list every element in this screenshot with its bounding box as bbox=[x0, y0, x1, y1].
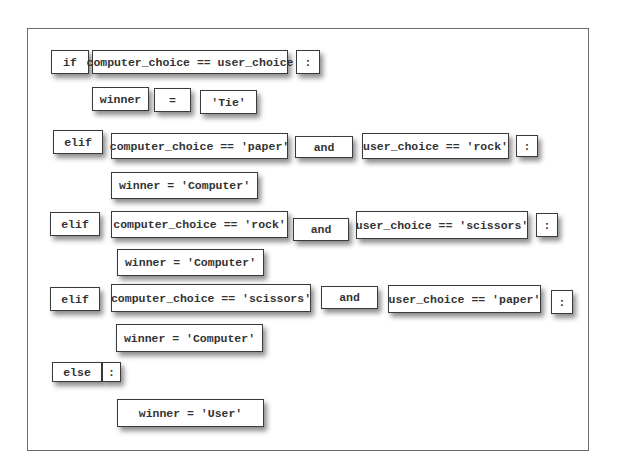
tile-elif[interactable]: elif bbox=[50, 212, 100, 236]
tile-tie-string[interactable]: 'Tie' bbox=[200, 90, 257, 114]
tile-and[interactable]: and bbox=[295, 136, 353, 158]
tile-if[interactable]: if bbox=[51, 50, 89, 74]
tile-condition[interactable]: computer_choice == 'rock' bbox=[111, 211, 288, 238]
tile-elif[interactable]: elif bbox=[50, 287, 100, 311]
tile-equals[interactable]: = bbox=[154, 88, 191, 112]
tile-condition[interactable]: computer_choice == user_choice bbox=[92, 50, 288, 74]
tile-elif[interactable]: elif bbox=[53, 130, 103, 154]
tile-and[interactable]: and bbox=[293, 218, 349, 241]
tile-and[interactable]: and bbox=[321, 286, 378, 309]
tile-condition[interactable]: computer_choice == 'scissors' bbox=[111, 284, 311, 312]
tile-colon[interactable]: : bbox=[516, 135, 538, 157]
tile-condition[interactable]: user_choice == 'paper' bbox=[388, 285, 541, 313]
tile-condition[interactable]: user_choice == 'scissors' bbox=[356, 211, 528, 239]
tile-else[interactable]: else bbox=[52, 362, 102, 382]
tile-winner[interactable]: winner bbox=[92, 87, 149, 111]
tile-colon[interactable]: : bbox=[296, 50, 320, 74]
tile-condition[interactable]: computer_choice == 'paper' bbox=[111, 133, 288, 159]
tile-assignment[interactable]: winner = 'Computer' bbox=[111, 172, 258, 199]
tile-colon[interactable]: : bbox=[536, 213, 558, 237]
tile-assignment[interactable]: winner = 'Computer' bbox=[117, 249, 264, 276]
tile-assignment[interactable]: winner = 'Computer' bbox=[116, 324, 263, 352]
tile-colon[interactable]: : bbox=[551, 290, 573, 314]
tile-condition[interactable]: user_choice == 'rock' bbox=[362, 133, 509, 159]
tile-assignment[interactable]: winner = 'User' bbox=[117, 399, 264, 427]
tile-colon[interactable]: : bbox=[102, 362, 121, 382]
